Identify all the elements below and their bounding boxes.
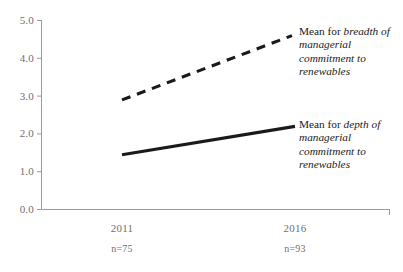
x-tick-label-2011: 2011 <box>92 222 152 234</box>
x-tick-sublabel-2011: n=75 <box>92 243 152 254</box>
annotation-lead-breadth: Mean for <box>299 25 344 37</box>
y-tick-label-1: 1.0 <box>6 165 34 177</box>
series-annotation-depth: Mean for depth of managerial commitment … <box>299 118 403 172</box>
chart-figure: 5.0 4.0 3.0 2.0 1.0 0.0 2011 n=75 2016 n… <box>0 0 403 272</box>
x-tick-sublabel-2016: n=93 <box>265 243 325 254</box>
annotation-emphasis-depth: depth <box>344 118 369 130</box>
series-annotation-breadth: Mean for breadth of managerial commitmen… <box>299 25 403 79</box>
series-line-breadth <box>122 36 292 100</box>
y-tick-label-3: 3.0 <box>6 90 34 102</box>
y-tick-label-2: 2.0 <box>6 127 34 139</box>
series-line-depth <box>122 126 295 154</box>
y-tick-label-4: 4.0 <box>6 52 34 64</box>
y-axis-ticks <box>37 21 42 210</box>
x-tick-label-2016: 2016 <box>265 222 325 234</box>
annotation-lead-depth: Mean for <box>299 118 344 130</box>
y-tick-label-0: 0.0 <box>6 203 34 215</box>
annotation-emphasis-breadth: breadth <box>344 25 379 37</box>
y-tick-label-5: 5.0 <box>6 14 34 26</box>
